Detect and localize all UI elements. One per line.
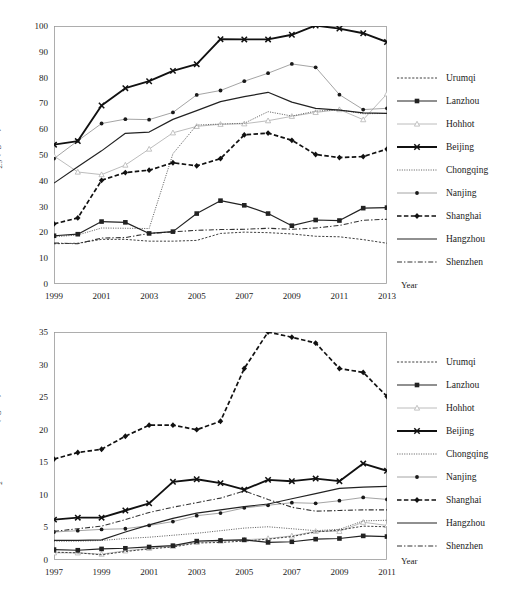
legend-label: Nanjing: [446, 472, 477, 482]
x-axis-title-no2: Year: [401, 556, 418, 566]
plot-area-no2: [54, 332, 387, 560]
legend-item-chongqing[interactable]: Chongqing: [396, 442, 488, 465]
legend-key-chongqing: [396, 447, 438, 461]
series-marker-lanzhou: [194, 211, 199, 216]
series-marker-lanzhou: [337, 218, 342, 223]
series-marker-nanjing: [385, 106, 387, 110]
series-marker-lanzhou: [147, 231, 152, 236]
y-tick-label: 50: [20, 150, 48, 160]
legend-label: Beijing: [446, 142, 474, 152]
x-tick-label: 2001: [93, 291, 111, 301]
series-marker-nanjing: [219, 511, 223, 515]
series-marker-lanzhou: [123, 546, 128, 551]
legend-no2: UrumqiLanzhouHohhotBeijingChongqingNanji…: [396, 350, 488, 557]
series-marker-hohhot: [361, 520, 366, 525]
series-marker-lanzhou: [242, 538, 247, 543]
series-marker-shanghai: [75, 450, 80, 456]
series-line-hohhot: [54, 94, 387, 175]
series-marker-shanghai: [384, 146, 387, 152]
series-marker-shanghai: [99, 446, 104, 452]
series-marker-lanzhou: [218, 198, 223, 203]
legend-key-urumqi: [396, 355, 438, 369]
legend-key-shenzhen: [396, 539, 438, 553]
legend-key-nanjing: [396, 186, 438, 200]
legend-item-beijing[interactable]: Beijing: [396, 135, 488, 158]
series-marker-shanghai: [75, 215, 80, 221]
legend-item-shanghai[interactable]: Shanghai: [396, 204, 488, 227]
series-marker-nanjing: [385, 498, 387, 502]
series-marker-shanghai: [123, 433, 128, 439]
series-line-lanzhou: [54, 201, 387, 236]
series-marker-shanghai: [123, 170, 128, 176]
legend-key-shanghai: [396, 493, 438, 507]
legend-item-hangzhou[interactable]: Hangzhou: [396, 511, 488, 534]
legend-key-lanzhou: [396, 378, 438, 392]
series-line-shanghai: [54, 332, 387, 459]
legend-key-chongqing: [396, 163, 438, 177]
legend-label: Hohhot: [446, 403, 475, 413]
legend-label: Shanghai: [446, 211, 481, 221]
legend-item-shenzhen[interactable]: Shenzhen: [396, 534, 488, 557]
legend-item-hangzhou[interactable]: Hangzhou: [396, 227, 488, 250]
legend-label: Urumqi: [446, 357, 476, 367]
legend-item-beijing[interactable]: Beijing: [396, 419, 488, 442]
legend-key-hohhot: [396, 401, 438, 415]
y-axis-label-no2: NO2 Concentration (ug/m3): [0, 394, 3, 499]
y-tick-label: 40: [20, 176, 48, 186]
legend-label: Lanzhou: [446, 380, 479, 390]
legend-item-hohhot[interactable]: Hohhot: [396, 396, 488, 419]
series-marker-nanjing: [242, 79, 246, 83]
legend-key-shenzhen: [396, 255, 438, 269]
y-tick-label: 80: [20, 73, 48, 83]
figure-root: PM2.5 (ug/m3) 0102030405060708090100 199…: [0, 0, 505, 601]
legend-item-hohhot[interactable]: Hohhot: [396, 112, 488, 135]
legend-item-urumqi[interactable]: Urumqi: [396, 66, 488, 89]
series-marker-lanzhou: [171, 229, 176, 234]
series-marker-lanzhou: [218, 538, 223, 543]
y-tick-label: 100: [20, 21, 48, 31]
legend-key-nanjing: [396, 470, 438, 484]
plot-border: [55, 27, 387, 284]
series-marker-shanghai: [170, 160, 175, 166]
legend-label: Chongqing: [446, 449, 488, 459]
x-axis-title-pm25: Year: [401, 280, 418, 290]
legend-item-lanzhou[interactable]: Lanzhou: [396, 89, 488, 112]
legend-label: Hangzhou: [446, 234, 485, 244]
series-marker-nanjing: [338, 499, 342, 503]
series-marker-shanghai: [289, 334, 294, 340]
legend-item-nanjing[interactable]: Nanjing: [396, 181, 488, 204]
series-marker-nanjing: [219, 89, 223, 93]
legend-item-nanjing[interactable]: Nanjing: [396, 465, 488, 488]
series-marker-shanghai: [170, 422, 175, 428]
series-marker-nanjing: [361, 496, 365, 500]
x-tick-label: 2005: [188, 291, 206, 301]
legend-item-urumqi[interactable]: Urumqi: [396, 350, 488, 373]
series-marker-lanzhou: [75, 548, 80, 553]
x-tick-label: 1999: [45, 291, 63, 301]
x-tick-label: 2007: [283, 567, 301, 577]
series-marker-lanzhou: [385, 534, 387, 539]
series-marker-shanghai: [54, 456, 57, 462]
legend-key-hangzhou: [396, 232, 438, 246]
x-tick-label: 1997: [45, 567, 63, 577]
series-marker-nanjing: [314, 501, 318, 505]
series-marker-lanzhou: [313, 218, 318, 223]
series-marker-lanzhou: [361, 206, 366, 211]
series-marker-shanghai: [337, 155, 342, 161]
legend-key-lanzhou: [396, 94, 438, 108]
x-tick-label: 2011: [378, 567, 396, 577]
legend-item-shanghai[interactable]: Shanghai: [396, 488, 488, 511]
y-tick-label: 25: [20, 392, 48, 402]
series-marker-shanghai: [361, 154, 366, 160]
legend-item-lanzhou[interactable]: Lanzhou: [396, 373, 488, 396]
y-tick-label: 20: [20, 227, 48, 237]
series-marker-beijing: [313, 26, 318, 28]
legend-item-chongqing[interactable]: Chongqing: [396, 158, 488, 181]
series-marker-nanjing: [361, 108, 365, 112]
series-marker-nanjing: [171, 520, 175, 524]
series-marker-shanghai: [54, 221, 57, 227]
series-marker-lanzhou: [361, 534, 366, 539]
y-tick-label: 0: [20, 555, 48, 565]
legend-item-shenzhen[interactable]: Shenzhen: [396, 250, 488, 273]
series-marker-shanghai: [194, 163, 199, 169]
